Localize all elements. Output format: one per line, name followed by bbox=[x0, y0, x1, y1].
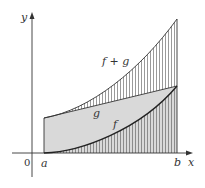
label-g: g bbox=[93, 107, 100, 120]
x-axis-arrow-icon bbox=[186, 151, 193, 156]
label-origin: 0 bbox=[24, 157, 30, 168]
label-y-axis: y bbox=[20, 11, 28, 24]
label-f-plus-g: f + g bbox=[101, 55, 129, 68]
label-a: a bbox=[41, 157, 48, 170]
y-axis-arrow-icon bbox=[30, 12, 35, 19]
label-b: b bbox=[174, 156, 181, 169]
label-x-axis: x bbox=[188, 156, 195, 169]
function-sum-diagram: f + g g f y x 0 a b bbox=[0, 0, 205, 188]
